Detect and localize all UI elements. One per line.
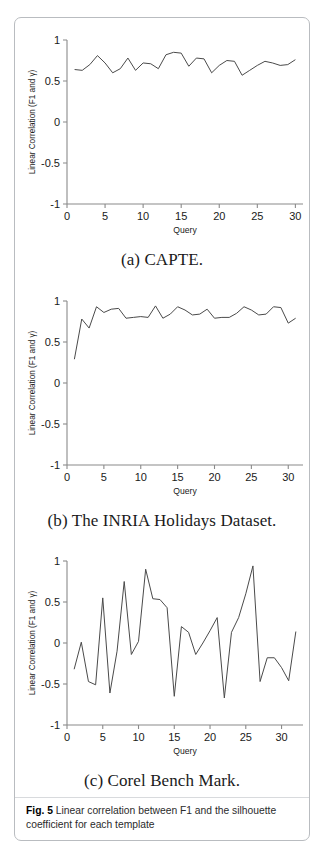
chart-c-x-tick-label: 30: [275, 731, 287, 743]
chart-b-y-tick-label: -0.5: [41, 417, 60, 429]
chart-a-y-tick-label: 0.5: [45, 75, 60, 87]
chart-a-data-line: [75, 52, 296, 75]
chart-b-x-axis-title: Query: [173, 486, 197, 496]
chart-c-y-tick-label: -1: [50, 719, 60, 731]
chart-b-x-tick-label: 10: [135, 471, 147, 483]
chart-b-plot-area: -1-0.500.51051015202530QueryLinear Corre…: [28, 294, 303, 495]
chart-c: -1-0.500.51051015202530QueryLinear Corre…: [15, 539, 310, 771]
chart-a-x-tick-label: 30: [289, 210, 301, 222]
figure-number: Fig. 5: [26, 805, 53, 816]
chart-a-y-tick-label: -0.5: [41, 157, 60, 169]
chart-a-svg: -1-0.500.51051015202530QueryLinear Corre…: [15, 18, 310, 250]
chart-c-data-line: [74, 566, 296, 698]
chart-c-y-tick-label: 0: [54, 637, 60, 649]
subcaption-a: (a) CAPTE.: [15, 250, 309, 270]
chart-c-x-tick-label: 25: [240, 731, 252, 743]
chart-b-y-tick-label: -1: [50, 458, 60, 470]
chart-b-y-tick-label: 1: [54, 294, 60, 306]
chart-b-x-tick-label: 5: [101, 471, 107, 483]
chart-b: -1-0.500.51051015202530QueryLinear Corre…: [15, 279, 310, 511]
figure-panel-b: -1-0.500.51051015202530QueryLinear Corre…: [15, 279, 309, 531]
chart-b-x-tick-label: 25: [245, 471, 257, 483]
chart-c-plot-area: -1-0.500.51051015202530QueryLinear Corre…: [28, 555, 303, 756]
subcaption-c: (c) Corel Bench Mark.: [15, 771, 309, 791]
chart-b-x-tick-label: 15: [172, 471, 184, 483]
chart-a-x-tick-label: 0: [64, 210, 70, 222]
chart-c-x-tick-label: 20: [204, 731, 216, 743]
subcaption-b: (b) The INRIA Holidays Dataset.: [15, 511, 309, 531]
chart-b-y-tick-label: 0: [54, 376, 60, 388]
chart-c-x-tick-label: 5: [100, 731, 106, 743]
chart-a-x-tick-label: 25: [251, 210, 263, 222]
chart-c-y-tick-label: 1: [54, 555, 60, 567]
chart-c-y-tick-label: 0.5: [45, 596, 60, 608]
chart-c-y-axis-title: Linear Correlation (F1 and γ): [28, 590, 37, 695]
chart-b-y-tick-label: 0.5: [45, 335, 60, 347]
chart-a-x-tick-label: 15: [175, 210, 187, 222]
chart-a: -1-0.500.51051015202530QueryLinear Corre…: [15, 18, 310, 250]
chart-c-x-tick-label: 0: [64, 731, 70, 743]
figure-panel-a: -1-0.500.51051015202530QueryLinear Corre…: [15, 18, 309, 270]
figure-caption-text: Linear correlation between F1 and the si…: [26, 805, 276, 830]
chart-b-y-axis-title: Linear Correlation (F1 and γ): [28, 330, 37, 435]
chart-b-x-tick-label: 0: [64, 471, 70, 483]
chart-c-x-axis-title: Query: [173, 746, 197, 756]
chart-b-svg: -1-0.500.51051015202530QueryLinear Corre…: [15, 279, 310, 511]
chart-a-x-tick-label: 20: [213, 210, 225, 222]
chart-a-plot-area: -1-0.500.51051015202530QueryLinear Corre…: [28, 34, 303, 235]
chart-c-y-tick-label: -0.5: [41, 678, 60, 690]
chart-a-y-tick-label: 1: [54, 34, 60, 46]
chart-a-y-axis-title: Linear Correlation (F1 and γ): [28, 69, 37, 174]
chart-a-x-tick-label: 5: [102, 210, 108, 222]
figure-card: -1-0.500.51051015202530QueryLinear Corre…: [14, 17, 310, 841]
chart-b-x-tick-label: 20: [208, 471, 220, 483]
chart-c-svg: -1-0.500.51051015202530QueryLinear Corre…: [15, 539, 310, 771]
chart-a-y-tick-label: 0: [54, 116, 60, 128]
chart-b-data-line: [74, 305, 295, 358]
chart-a-x-tick-label: 10: [137, 210, 149, 222]
chart-c-x-tick-label: 10: [132, 731, 144, 743]
chart-c-x-tick-label: 15: [168, 731, 180, 743]
figure-caption: Fig. 5 Linear correlation between F1 and…: [15, 797, 309, 840]
chart-a-x-axis-title: Query: [173, 225, 197, 235]
figure-panel-c: -1-0.500.51051015202530QueryLinear Corre…: [15, 539, 309, 791]
chart-b-x-tick-label: 30: [282, 471, 294, 483]
chart-a-y-tick-label: -1: [50, 198, 60, 210]
